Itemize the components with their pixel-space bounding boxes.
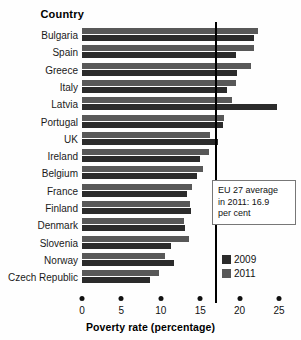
country-label: Ireland bbox=[0, 150, 78, 163]
bar-2009 bbox=[82, 104, 277, 110]
x-axis-tick-label: 5 bbox=[119, 305, 125, 316]
country-label: Latvia bbox=[0, 98, 78, 111]
bar-row: UK bbox=[0, 131, 301, 148]
bar-2009 bbox=[82, 260, 174, 266]
bar-2009 bbox=[82, 35, 254, 41]
x-axis-title: Poverty rate (percentage) bbox=[0, 321, 301, 333]
x-axis-tick-label: 20 bbox=[234, 305, 245, 316]
country-label: Czech Republic bbox=[0, 271, 78, 284]
bar-2011 bbox=[82, 132, 210, 138]
country-label: France bbox=[0, 185, 78, 198]
bar-row: Ireland bbox=[0, 148, 301, 165]
bar-2009 bbox=[82, 225, 185, 231]
bar-row: Greece bbox=[0, 62, 301, 79]
bar-2009 bbox=[82, 208, 191, 214]
country-label: Finland bbox=[0, 202, 78, 215]
bar-row: Portugal bbox=[0, 114, 301, 131]
bar-row: Spain bbox=[0, 44, 301, 61]
x-axis-tick bbox=[237, 296, 242, 301]
legend-swatch-icon bbox=[222, 269, 231, 278]
bar-2009 bbox=[82, 173, 197, 179]
bar-2011 bbox=[82, 115, 224, 121]
legend-label: 2009 bbox=[234, 254, 256, 265]
country-label: Slovenia bbox=[0, 237, 78, 250]
x-axis-tick-label: 10 bbox=[155, 305, 166, 316]
x-axis-tick-label: 15 bbox=[195, 305, 206, 316]
bar-2011 bbox=[82, 201, 190, 207]
country-label: Spain bbox=[0, 46, 78, 59]
x-axis-tick bbox=[198, 296, 203, 301]
bar-row: Latvia bbox=[0, 96, 301, 113]
country-label: Greece bbox=[0, 64, 78, 77]
bar-row: Slovenia bbox=[0, 235, 301, 252]
bar-2011 bbox=[82, 218, 184, 224]
x-axis-tick-label: 25 bbox=[273, 305, 284, 316]
bar-2011 bbox=[82, 253, 165, 259]
bar-2009 bbox=[82, 52, 236, 58]
bar-2009 bbox=[82, 191, 187, 197]
bar-2009 bbox=[82, 156, 200, 162]
bar-2011 bbox=[82, 270, 159, 276]
bar-row: Bulgaria bbox=[0, 27, 301, 44]
bar-2011 bbox=[82, 236, 189, 242]
country-label: Portugal bbox=[0, 116, 78, 129]
bar-2009 bbox=[82, 277, 150, 283]
bar-2009 bbox=[82, 122, 223, 128]
x-axis-tick bbox=[158, 296, 163, 301]
eu-annotation-line-2: in 2011: 16.9 bbox=[218, 197, 290, 209]
bar-2009 bbox=[82, 70, 237, 76]
bar-2009 bbox=[82, 139, 218, 145]
legend-item: 2011 bbox=[222, 267, 256, 279]
bar-2011 bbox=[82, 45, 254, 51]
x-axis-tick bbox=[119, 296, 124, 301]
chart-legend: 20092011 bbox=[222, 253, 256, 281]
poverty-rate-bar-chart: Country BulgariaSpainGreeceItalyLatviaPo… bbox=[0, 0, 301, 340]
bar-2011 bbox=[82, 28, 258, 34]
eu-annotation-line-1: EU 27 average bbox=[218, 185, 290, 197]
country-label: Italy bbox=[0, 81, 78, 94]
legend-item: 2009 bbox=[222, 253, 256, 265]
x-axis-tick bbox=[277, 296, 282, 301]
bar-2009 bbox=[82, 243, 171, 249]
bar-2011 bbox=[82, 80, 236, 86]
plot-area: Country BulgariaSpainGreeceItalyLatviaPo… bbox=[0, 0, 301, 340]
x-axis: 0510152025 Poverty rate (percentage) bbox=[0, 296, 301, 340]
bar-row: Italy bbox=[0, 79, 301, 96]
legend-label: 2011 bbox=[234, 268, 256, 279]
bar-2011 bbox=[82, 63, 251, 69]
eu-average-vline bbox=[215, 22, 217, 303]
country-label: UK bbox=[0, 133, 78, 146]
bar-2011 bbox=[82, 166, 203, 172]
eu-average-annotation-box: EU 27 average in 2011: 16.9 per cent bbox=[212, 180, 296, 225]
country-label: Belgium bbox=[0, 167, 78, 180]
x-axis-tick bbox=[80, 296, 85, 301]
country-column-header: Country bbox=[0, 8, 84, 20]
bar-2009 bbox=[82, 87, 227, 93]
country-label: Bulgaria bbox=[0, 29, 78, 42]
bar-2011 bbox=[82, 184, 192, 190]
bar-2011 bbox=[82, 97, 232, 103]
legend-swatch-icon bbox=[222, 255, 231, 264]
country-label: Norway bbox=[0, 254, 78, 267]
eu-annotation-line-3: per cent bbox=[218, 208, 290, 220]
country-label: Denmark bbox=[0, 219, 78, 232]
bar-2011 bbox=[82, 149, 209, 155]
x-axis-tick-label: 0 bbox=[79, 305, 85, 316]
